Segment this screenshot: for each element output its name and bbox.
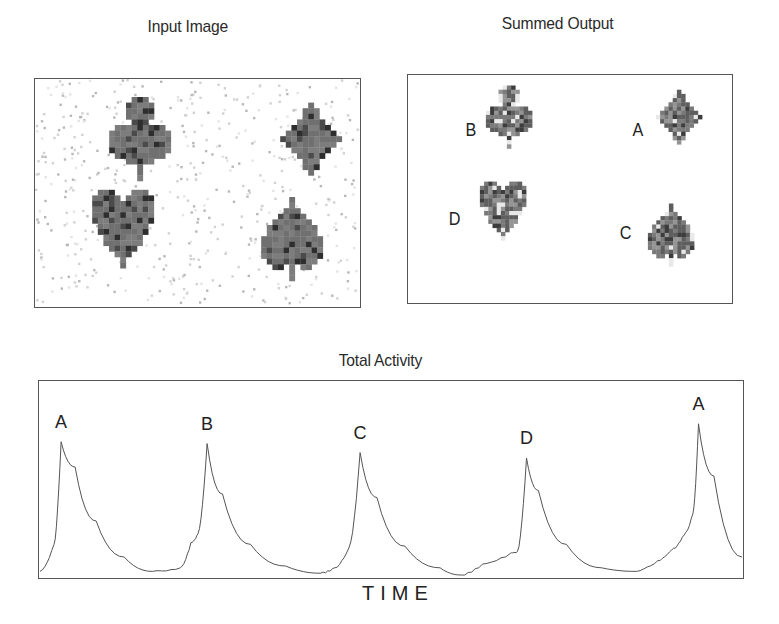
total-activity-chart: ABCDA [0, 0, 779, 624]
peak-label-d-3: D [520, 428, 533, 448]
chart-frame [39, 381, 744, 579]
peak-label-a-0: A [55, 412, 67, 432]
peak-label-b-1: B [201, 414, 213, 434]
peak-labels: ABCDA [55, 394, 704, 448]
peak-label-c-2: C [354, 423, 367, 443]
activity-line [40, 424, 742, 575]
x-axis-label: TIME [362, 582, 434, 605]
peak-label-a-4: A [692, 394, 704, 414]
